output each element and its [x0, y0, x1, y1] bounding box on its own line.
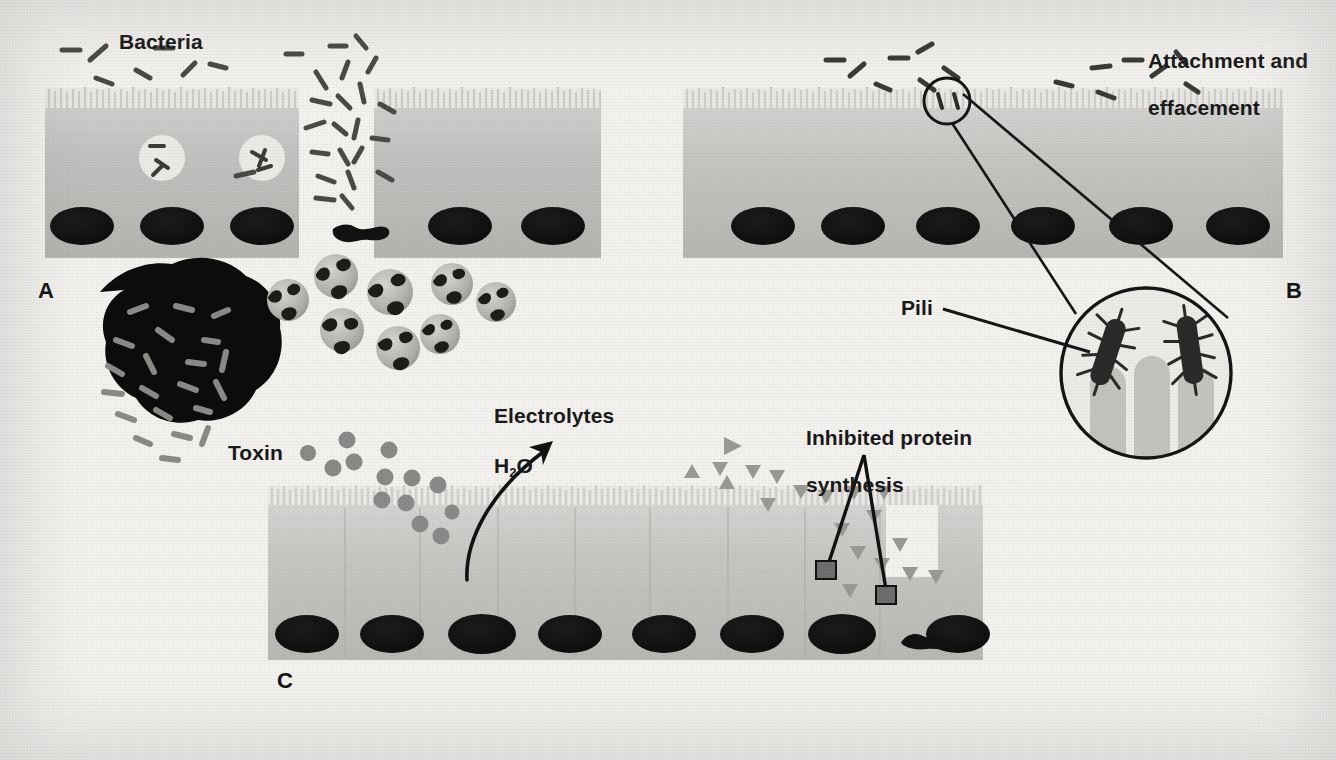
panel-a-vacuole: [139, 135, 185, 181]
panel-letter-a: A: [38, 278, 54, 304]
label-pili: Pili: [901, 296, 933, 320]
inhibited-line-1: Inhibited protein: [806, 426, 972, 449]
attachment-line-2: effacement: [1148, 96, 1260, 119]
inhibited-line-2: synthesis: [806, 473, 904, 496]
label-electrolytes: Electrolytes: [494, 404, 614, 428]
water-formula-o: O: [517, 454, 533, 477]
diagram-artwork: [0, 0, 1336, 760]
label-water: H2O: [494, 430, 533, 480]
label-bacteria: Bacteria: [119, 30, 203, 54]
attachment-line-1: Attachment and: [1148, 49, 1308, 72]
figure-canvas: Bacteria Attachment and effacement Pili …: [0, 0, 1336, 760]
water-formula-h: H: [494, 454, 509, 477]
pili-leader-line: [943, 309, 1090, 352]
panel-a-neutrophils: [267, 254, 516, 370]
label-attachment-effacement: Attachment and effacement: [1148, 25, 1308, 119]
panel-a-abscess: [100, 258, 282, 423]
label-toxin: Toxin: [228, 441, 283, 465]
panel-a-group: [45, 36, 601, 460]
label-inhibited-protein-synthesis: Inhibited protein synthesis: [806, 402, 972, 496]
ribosome-marker: [816, 561, 836, 579]
water-formula-subscript: 2: [509, 465, 516, 480]
ribosome-marker: [876, 586, 896, 604]
panel-letter-c: C: [277, 668, 293, 694]
pili-inset: [1061, 288, 1231, 470]
panel-letter-b: B: [1286, 278, 1302, 304]
